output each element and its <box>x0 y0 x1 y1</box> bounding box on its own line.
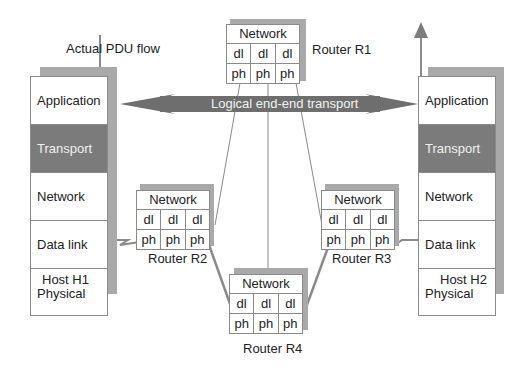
r1-dl: dl <box>227 44 251 63</box>
h1-layer-application: Application <box>31 77 107 125</box>
host-h2-label: Host H2 <box>440 272 487 287</box>
r1-dl: dl <box>276 44 299 63</box>
r1-network: Network <box>227 25 299 44</box>
r2-dl: dl <box>161 210 185 229</box>
r4-ph: ph <box>230 314 254 333</box>
r4-dl: dl <box>230 294 254 313</box>
h2-layer-datalink: Data link <box>419 221 495 269</box>
router-r2-label: Router R2 <box>148 251 207 266</box>
r3-ph: ph <box>322 230 346 249</box>
r4-ph: ph <box>254 314 278 333</box>
r2-ph: ph <box>137 230 161 249</box>
r2-dl: dl <box>186 210 209 229</box>
r3-ph: ph <box>371 230 394 249</box>
r4-network: Network <box>230 275 302 294</box>
host-h1-label: Host H1 <box>42 272 89 287</box>
router-r2: Network dldldl phphph <box>136 190 210 250</box>
r1-dl: dl <box>251 44 275 63</box>
h1-layer-transport: Transport <box>31 125 107 173</box>
r3-dl: dl <box>322 210 346 229</box>
h2-layer-application: Application <box>419 77 495 125</box>
r1-ph: ph <box>227 64 251 83</box>
r1-ph: ph <box>276 64 299 83</box>
pdu-flow-label: Actual PDU flow <box>66 41 160 56</box>
r2-dl: dl <box>137 210 161 229</box>
h2-layer-transport: Transport <box>419 125 495 173</box>
r1-ph: ph <box>251 64 275 83</box>
h2-layer-network: Network <box>419 173 495 221</box>
h1-layer-datalink: Data link <box>31 221 107 269</box>
router-r4-label: Router R4 <box>243 341 302 356</box>
r3-dl: dl <box>371 210 394 229</box>
r3-ph: ph <box>346 230 370 249</box>
r4-dl: dl <box>279 294 302 313</box>
r4-dl: dl <box>254 294 278 313</box>
h1-layer-network: Network <box>31 173 107 221</box>
r2-ph: ph <box>186 230 209 249</box>
router-r1-label: Router R1 <box>312 42 371 57</box>
r2-network: Network <box>137 191 209 210</box>
router-r3: Network dldldl phphph <box>321 190 395 250</box>
logical-transport-label: Logical end-end transport <box>211 96 358 111</box>
r3-network: Network <box>322 191 394 210</box>
r4-ph: ph <box>279 314 302 333</box>
router-r1: Network dldldl phphph <box>226 24 300 84</box>
r2-ph: ph <box>161 230 185 249</box>
r3-dl: dl <box>346 210 370 229</box>
router-r4: Network dldldl phphph <box>229 274 303 334</box>
router-r3-label: Router R3 <box>332 251 391 266</box>
